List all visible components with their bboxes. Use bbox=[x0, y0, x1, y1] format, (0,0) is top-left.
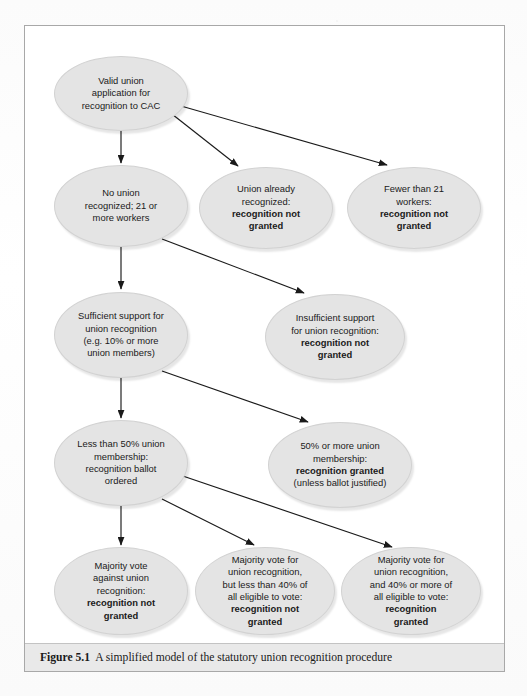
node-valid-union-application[interactable]: Valid unionapplication forrecognition to… bbox=[54, 56, 188, 131]
node-union-already-recognized[interactable]: Union alreadyrecognized:recognition notg… bbox=[199, 167, 333, 249]
edge-n5-n8 bbox=[162, 371, 308, 422]
node-text: Majority vote forunion recognition,but l… bbox=[205, 554, 325, 628]
node-text: Majority voteagainst unionrecognition:re… bbox=[64, 560, 178, 622]
node-text: Majority vote forunion recognition,and 4… bbox=[351, 554, 471, 628]
node-majority-vote-under-40[interactable]: Majority vote forunion recognition,but l… bbox=[195, 547, 335, 635]
node-text: No unionrecognized; 21 ormore workers bbox=[64, 187, 178, 224]
diagram-canvas: Valid unionapplication forrecognition to… bbox=[25, 26, 504, 645]
node-text: Fewer than 21workers:recognition notgran… bbox=[357, 183, 471, 233]
node-text: Sufficient support forunion recognition(… bbox=[64, 310, 178, 360]
node-insufficient-support[interactable]: Insufficient supportfor union recognitio… bbox=[265, 294, 405, 380]
figure-frame: Valid unionapplication forrecognition to… bbox=[24, 25, 505, 672]
figure-caption: Figure 5.1 A simplified model of the sta… bbox=[25, 651, 392, 664]
node-no-union-recognized[interactable]: No unionrecognized; 21 ormore workers bbox=[54, 165, 188, 247]
node-text: Valid unionapplication forrecognition to… bbox=[64, 75, 178, 112]
node-less-than-50-percent[interactable]: Less than 50% unionmembership:recognitio… bbox=[54, 420, 188, 506]
node-text: Insufficient supportfor union recognitio… bbox=[275, 312, 395, 362]
edge-n1-n4 bbox=[181, 106, 387, 165]
node-50-percent-or-more[interactable]: 50% or more unionmembership:recognition … bbox=[268, 422, 412, 508]
figure-caption-bar: Figure 5.1 A simplified model of the sta… bbox=[25, 643, 504, 671]
node-text: 50% or more unionmembership:recognition … bbox=[278, 440, 402, 490]
figure-label: Figure 5.1 bbox=[40, 651, 90, 664]
figure-caption-body: A simplified model of the statutory unio… bbox=[95, 651, 392, 664]
node-majority-vote-over-40[interactable]: Majority vote forunion recognition,and 4… bbox=[341, 547, 481, 635]
edge-n7-n10 bbox=[162, 499, 254, 545]
node-text: Union alreadyrecognized:recognition notg… bbox=[209, 183, 323, 233]
node-majority-vote-against[interactable]: Majority voteagainst unionrecognition:re… bbox=[54, 547, 188, 635]
node-sufficient-support[interactable]: Sufficient support forunion recognition(… bbox=[54, 292, 188, 378]
node-fewer-than-21-workers[interactable]: Fewer than 21workers:recognition notgran… bbox=[347, 167, 481, 249]
node-text: Less than 50% unionmembership:recognitio… bbox=[64, 438, 178, 488]
